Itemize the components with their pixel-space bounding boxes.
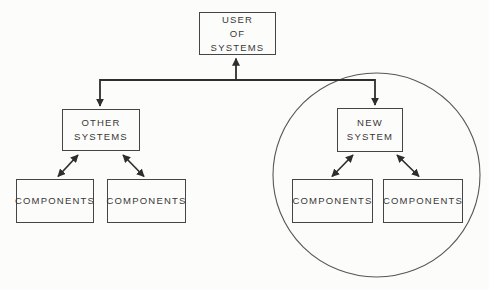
- new-system-scope-circle: [273, 73, 480, 277]
- node-components-right-a: COMPONENTS: [292, 179, 373, 223]
- node-other-systems: OTHER SYSTEMS: [62, 109, 140, 151]
- node-components-left-b: COMPONENTS: [107, 179, 186, 223]
- node-new-system: NEW SYSTEM: [337, 108, 403, 152]
- bidirectional-arrow-new-to-components-a: [332, 155, 353, 177]
- node-components-left-a: COMPONENTS: [16, 179, 94, 223]
- node-components-right-a-label: COMPONENTS: [292, 194, 372, 208]
- bidirectional-arrow-other-to-components-b: [123, 155, 144, 177]
- node-components-left-b-label: COMPONENTS: [106, 194, 186, 208]
- node-components-right-b: COMPONENTS: [383, 179, 463, 223]
- diagram-canvas: USER OF SYSTEMS OTHER SYSTEMS COMPONENTS…: [0, 0, 489, 290]
- bidirectional-arrow-other-to-components-a: [58, 155, 78, 177]
- node-new-system-label: NEW SYSTEM: [347, 116, 393, 144]
- bidirectional-arrow-new-to-components-b: [397, 155, 419, 177]
- node-components-right-b-label: COMPONENTS: [383, 194, 463, 208]
- trunk-connector: [100, 80, 375, 106]
- node-user-of-systems-label: USER OF SYSTEMS: [211, 13, 265, 55]
- node-other-systems-label: OTHER SYSTEMS: [74, 116, 128, 144]
- node-user-of-systems: USER OF SYSTEMS: [199, 12, 276, 55]
- node-components-left-a-label: COMPONENTS: [15, 194, 95, 208]
